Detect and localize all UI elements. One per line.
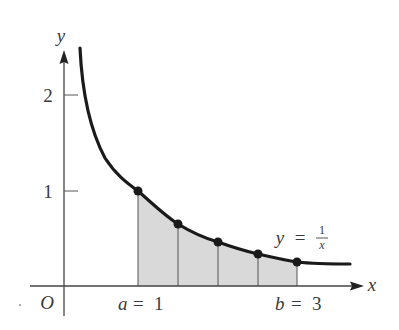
curve-one-over-x [80,48,350,264]
svg-text:b: b [275,293,285,314]
y-tick-label-1: 1 [43,181,53,202]
b-bound-label: b = 3 [275,293,322,314]
equation-lhs: y [274,227,285,248]
point-x1.5 [174,220,183,229]
svg-text:=: = [291,293,302,314]
origin-label: O [40,292,54,313]
curve-equation-label: y = 1 x [274,223,328,252]
point-x2 [214,238,223,247]
y-axis-label: y [55,25,66,46]
svg-text:a: a [118,293,128,314]
equation-numerator: 1 [319,223,325,237]
x-axis-label: x [367,274,377,295]
equation-equals: = [295,227,306,248]
x-axis-arrow-icon [350,282,364,291]
y-tick-label-2: 2 [43,85,53,106]
equation-denominator: x [318,238,325,252]
point-x2.5 [254,250,263,259]
svg-text:1: 1 [154,293,164,314]
svg-text:=: = [133,293,144,314]
scan-dot [19,304,21,306]
point-x3 [293,258,302,267]
a-bound-label: a = 1 [118,293,164,314]
graph-figure: y x O 2 1 a = 1 b = 3 y = 1 x [0,0,399,330]
y-axis-arrow-icon [60,50,69,64]
svg-text:3: 3 [312,293,322,314]
point-x1 [134,187,143,196]
